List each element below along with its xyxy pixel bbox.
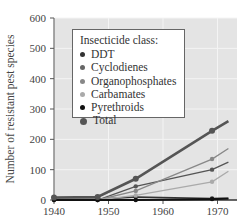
- y-tick-label: 600: [30, 12, 47, 24]
- legend-marker-icon: [80, 118, 87, 125]
- data-point: [133, 176, 139, 182]
- legend-label: Organophosphates: [91, 75, 176, 88]
- y-tick-label: 100: [30, 164, 47, 176]
- data-point: [209, 128, 215, 134]
- x-tick-label: 1950: [98, 205, 121, 217]
- data-point: [134, 184, 138, 188]
- data-point: [210, 157, 214, 161]
- legend-marker-icon: [80, 92, 85, 97]
- data-point: [210, 197, 214, 201]
- legend-item-cyclodienes: Cyclodienes: [80, 61, 184, 74]
- legend-label: Carbamates: [91, 88, 145, 101]
- data-point: [210, 167, 214, 171]
- legend: Insecticide class: DDTCyclodienesOrganop…: [72, 29, 185, 118]
- legend-label: Pyrethroids: [91, 101, 144, 114]
- legend-title: Insecticide class:: [80, 33, 184, 47]
- legend-marker-icon: [80, 52, 85, 57]
- legend-item-ddt: DDT: [80, 48, 184, 61]
- y-tick-label: 400: [30, 73, 47, 85]
- legend-item-total: Total: [80, 114, 184, 127]
- x-tick-label: 1960: [152, 205, 175, 217]
- legend-label: DDT: [91, 48, 115, 61]
- legend-item-carbamates: Carbamates: [80, 88, 184, 101]
- y-axis-label: Number of resistant pest species: [4, 34, 17, 183]
- legend-marker-icon: [80, 79, 85, 84]
- data-point: [134, 198, 138, 202]
- legend-item-organophosphates: Organophosphates: [80, 75, 184, 88]
- y-tick-label: 200: [30, 133, 47, 145]
- legend-label: Total: [93, 114, 116, 127]
- data-point: [134, 189, 138, 193]
- y-tick-label: 500: [30, 42, 47, 54]
- x-tick-label: 1940: [43, 205, 66, 217]
- legend-label: Cyclodienes: [91, 61, 148, 74]
- data-point: [210, 180, 214, 184]
- data-point: [95, 194, 101, 200]
- x-tick-label: 1970: [207, 205, 230, 217]
- data-point: [51, 195, 57, 201]
- data-point: [134, 193, 138, 197]
- legend-marker-icon: [80, 105, 85, 110]
- legend-marker-icon: [80, 65, 85, 70]
- legend-item-pyrethroids: Pyrethroids: [80, 101, 184, 114]
- y-tick-label: 300: [30, 103, 47, 115]
